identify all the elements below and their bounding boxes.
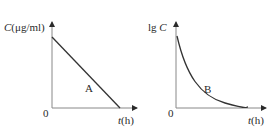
line-a	[52, 37, 120, 108]
figure: C(μg/ml) 0 t(h) A lg C 0 t(h) B	[0, 0, 279, 135]
chart-a: C(μg/ml) 0 t(h) A	[4, 21, 137, 127]
chart-b: lg C 0 t(h) B	[148, 21, 266, 127]
curve-label-a: A	[85, 82, 93, 94]
y-axis-label: lg C	[148, 21, 167, 33]
y-axis-label: C(μg/ml)	[4, 21, 45, 34]
x-axis-label: t(h)	[118, 114, 134, 127]
origin-label: 0	[43, 107, 49, 119]
curve-label-b: B	[204, 83, 211, 95]
x-axis-label: t(h)	[248, 114, 264, 127]
curve-b	[177, 36, 248, 108]
origin-label: 0	[168, 107, 174, 119]
